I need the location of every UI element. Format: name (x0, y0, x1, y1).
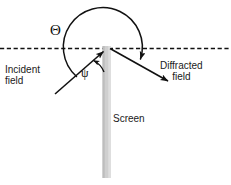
psi-angle-arc (94, 61, 105, 73)
diffracted-field-label: Diffracted field (160, 60, 203, 82)
incident-field-arrow (55, 52, 104, 95)
screen-bar (103, 46, 112, 178)
diffracted-field-label-line1: Diffracted (160, 60, 203, 71)
incident-field-label-line1: Incident (5, 64, 40, 75)
incident-field-label-line2: field (5, 75, 40, 86)
incident-field-label: Incident field (5, 64, 40, 86)
figure-canvas (0, 0, 231, 185)
psi-symbol: ψ (81, 66, 89, 81)
diffraction-geometry-figure: Θ ψ Incident field Diffracted field Scre… (0, 0, 231, 185)
screen-label: Screen (113, 113, 145, 124)
theta-symbol: Θ (50, 22, 61, 39)
diffracted-field-label-line2: field (160, 71, 203, 82)
